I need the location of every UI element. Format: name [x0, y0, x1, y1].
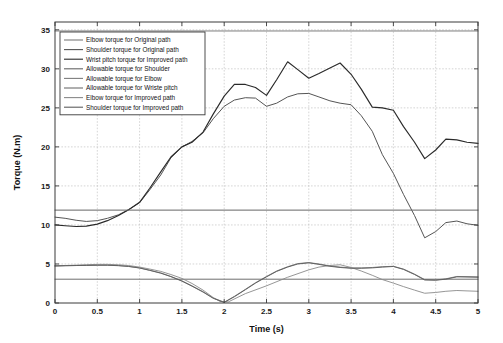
- y-tick-label: 20: [41, 143, 50, 152]
- legend-label: Allowable torque for Elbow: [86, 75, 162, 83]
- legend-label: Allowable torque for Shoulder: [86, 65, 171, 73]
- figure-container: 00.511.522.533.544.55 05101520253035 Tim…: [0, 0, 503, 343]
- y-axis-title: Torque (N.m): [12, 135, 22, 190]
- y-tick-label: 15: [41, 182, 50, 191]
- x-tick-label: 0: [53, 307, 58, 316]
- y-tick-label: 35: [41, 26, 50, 35]
- legend: Elbow torque for Original pathShoulder t…: [60, 32, 205, 115]
- x-tick-label: 4.5: [430, 307, 442, 316]
- legend-label: Wrist pitch torque for Improved path: [86, 56, 188, 64]
- x-tick-label: 4: [391, 307, 396, 316]
- legend-label: Shoulder torque for Original path: [86, 46, 179, 54]
- torque-line-chart: 00.511.522.533.544.55 05101520253035 Tim…: [0, 0, 503, 343]
- x-tick-label: 5: [476, 307, 481, 316]
- x-tick-label: 2.5: [261, 307, 273, 316]
- x-tick-label: 2: [222, 307, 227, 316]
- y-tick-label: 0: [46, 299, 51, 308]
- x-tick-label: 1: [137, 307, 142, 316]
- x-axis-title: Time (s): [249, 324, 283, 334]
- x-tick-label: 3.5: [346, 307, 358, 316]
- x-tick-label: 0.5: [92, 307, 104, 316]
- y-tick-label: 30: [41, 65, 50, 74]
- legend-label: Shoulder torque for Improved path: [86, 104, 184, 112]
- legend-label: Elbow torque for Improved path: [86, 94, 176, 102]
- y-tick-label: 10: [41, 221, 50, 230]
- x-tick-labels: 00.511.522.533.544.55: [53, 307, 481, 316]
- y-tick-label: 25: [41, 104, 50, 113]
- legend-label: Allowable torque for Wriste pitch: [86, 84, 178, 92]
- y-tick-label: 5: [46, 260, 51, 269]
- x-tick-label: 1.5: [176, 307, 188, 316]
- legend-label: Elbow torque for Original path: [86, 36, 171, 44]
- y-tick-labels: 05101520253035: [41, 26, 50, 308]
- x-tick-label: 3: [307, 307, 312, 316]
